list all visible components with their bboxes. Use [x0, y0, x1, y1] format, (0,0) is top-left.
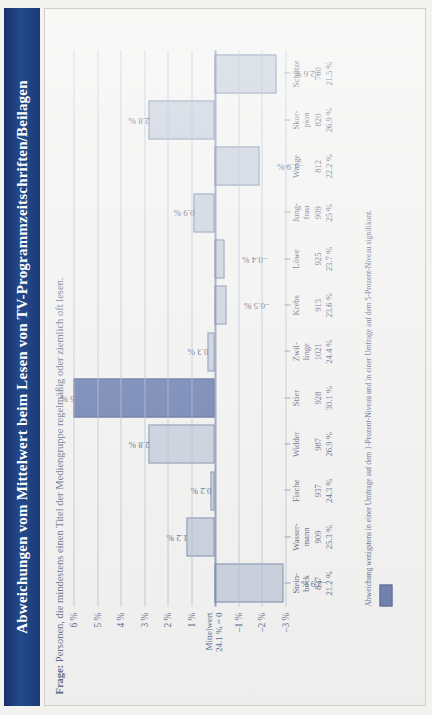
x-axis-tick — [285, 350, 291, 351]
category-count: 820 — [314, 96, 324, 142]
x-axis-category: Fische93724.3 % — [292, 467, 334, 513]
bar-value-label: –0.5 % — [265, 279, 275, 305]
x-axis-tick — [285, 397, 291, 398]
x-axis-tick — [285, 211, 291, 212]
bar-slot[interactable]: 0.2 % — [74, 467, 286, 513]
x-axis-tick — [285, 582, 291, 583]
category-name: Krebs — [292, 282, 313, 328]
x-axis-tick — [285, 489, 291, 490]
x-axis-tick — [285, 304, 291, 305]
bar-value-label: 2.8 % — [145, 99, 155, 120]
category-count: 913 — [314, 282, 324, 328]
subtitle-text: Personen, die mindestens einen Titel der… — [54, 277, 65, 664]
bar[interactable] — [149, 100, 215, 139]
bar-slot[interactable]: –0.4 % — [74, 235, 286, 281]
category-name: Fische — [292, 467, 313, 513]
plot-area: –2.9 %1.2 %0.2 %2.8 %6 %0.3 %–0.5 %–0.4 … — [74, 50, 286, 606]
bar-value-label: 0.3 % — [204, 330, 214, 351]
category-percentage: 30.1 % — [324, 374, 334, 420]
bar[interactable] — [149, 424, 215, 463]
bar-slot[interactable]: 6 % — [74, 374, 286, 420]
y-axis-tick-label: –1 % — [233, 612, 243, 632]
x-axis-tick — [285, 536, 291, 537]
bar-slot[interactable]: 0.3 % — [74, 328, 286, 374]
y-axis-tick-label: 6 % — [69, 612, 79, 627]
category-percentage: 23.7 % — [324, 235, 334, 281]
category-percentage: 25 % — [324, 189, 334, 235]
bar-slot[interactable]: 1.2 % — [74, 513, 286, 559]
x-axis-tick — [285, 443, 291, 444]
category-count: 837 — [314, 560, 324, 606]
gridline — [262, 50, 263, 606]
bar-value-label: –0.4 % — [262, 233, 272, 259]
bar[interactable] — [215, 54, 276, 93]
category-name: Stein- bock — [292, 560, 313, 606]
bar-slot[interactable]: –2.9 % — [74, 560, 286, 606]
x-axis-category: Schütze76021.5 % — [292, 50, 334, 96]
category-count: 1021 — [314, 328, 324, 374]
category-name: Zwil- linge — [292, 328, 313, 374]
y-axis-mean-label: Mittelwert24.1 % = 0 — [205, 612, 224, 652]
category-name: Stier — [292, 374, 313, 420]
category-name: Wasser- mann — [292, 513, 313, 559]
category-name: Schütze — [292, 50, 313, 96]
bar-value-label: 6 % — [70, 383, 80, 397]
bar[interactable] — [215, 285, 227, 324]
chart-subtitle: Frage: Personen, die mindestens einen Ti… — [54, 277, 65, 694]
category-name: Jung- frau — [292, 189, 313, 235]
x-axis-tick — [285, 165, 291, 166]
category-name: Skor- pion — [292, 96, 313, 142]
x-axis-category: Waage81222.2 % — [292, 143, 334, 189]
category-count: 909 — [314, 513, 324, 559]
y-axis-tick-label: 1 % — [186, 612, 196, 627]
gridline — [286, 50, 287, 606]
category-name: Widder — [292, 421, 313, 467]
bar-series: –2.9 %1.2 %0.2 %2.8 %6 %0.3 %–0.5 %–0.4 … — [74, 50, 286, 606]
y-axis-tick-label: 2 % — [163, 612, 173, 627]
category-percentage: 23.6 % — [324, 282, 334, 328]
y-axis-tick-label: –3 % — [281, 612, 291, 632]
bar-slot[interactable]: 2.8 % — [74, 421, 286, 467]
bar-slot[interactable]: 2.8 % — [74, 96, 286, 142]
page-title: Abweichungen vom Mittelwert beim Lesen v… — [14, 80, 31, 633]
chart-page: Abweichungen vom Mittelwert beim Lesen v… — [0, 0, 432, 715]
category-percentage: 22.2 % — [324, 143, 334, 189]
x-axis-tick — [285, 72, 291, 73]
category-percentage: 25.3 % — [324, 513, 334, 559]
gridline — [144, 50, 145, 606]
category-count: 928 — [314, 374, 324, 420]
bar-slot[interactable]: 0.9 % — [74, 189, 286, 235]
category-count: 925 — [314, 235, 324, 281]
gridline — [97, 50, 98, 606]
category-percentage: 24.3 % — [324, 467, 334, 513]
x-axis-tick — [285, 119, 291, 120]
x-axis-tick — [285, 258, 291, 259]
category-count: 909 — [314, 189, 324, 235]
legend-swatch — [380, 584, 393, 606]
bar-slot[interactable]: –1.9 % — [74, 143, 286, 189]
x-axis-category: Widder98726.9 % — [292, 421, 334, 467]
bar[interactable] — [215, 146, 260, 185]
bar-value-label: 2.8 % — [145, 423, 155, 444]
gridline — [74, 50, 75, 606]
bar[interactable] — [215, 563, 283, 602]
category-count: 812 — [314, 143, 324, 189]
category-percentage: 26.9 % — [324, 421, 334, 467]
zero-axis-line — [215, 50, 217, 606]
bar-slot[interactable]: –0.5 % — [74, 282, 286, 328]
category-name: Waage — [292, 143, 313, 189]
x-axis-category: Zwil- linge102124.4 % — [292, 328, 334, 374]
category-count: 987 — [314, 421, 324, 467]
x-axis-category: Jung- frau90925 % — [292, 189, 334, 235]
x-axis-category: Stier92830.1 % — [292, 374, 334, 420]
category-percentage: 26.9 % — [324, 96, 334, 142]
gridline — [191, 50, 192, 606]
gridline — [238, 50, 239, 606]
category-count: 937 — [314, 467, 324, 513]
category-name: Löwe — [292, 235, 313, 281]
y-axis-tick-label: 4 % — [116, 612, 126, 627]
category-count: 760 — [314, 50, 324, 96]
footnote: Abweichung wenigstens in einer Umfrage a… — [364, 210, 373, 606]
bar-slot[interactable]: –2.6 % — [74, 50, 286, 96]
chart-canvas: Frage: Personen, die mindestens einen Ti… — [48, 12, 423, 702]
